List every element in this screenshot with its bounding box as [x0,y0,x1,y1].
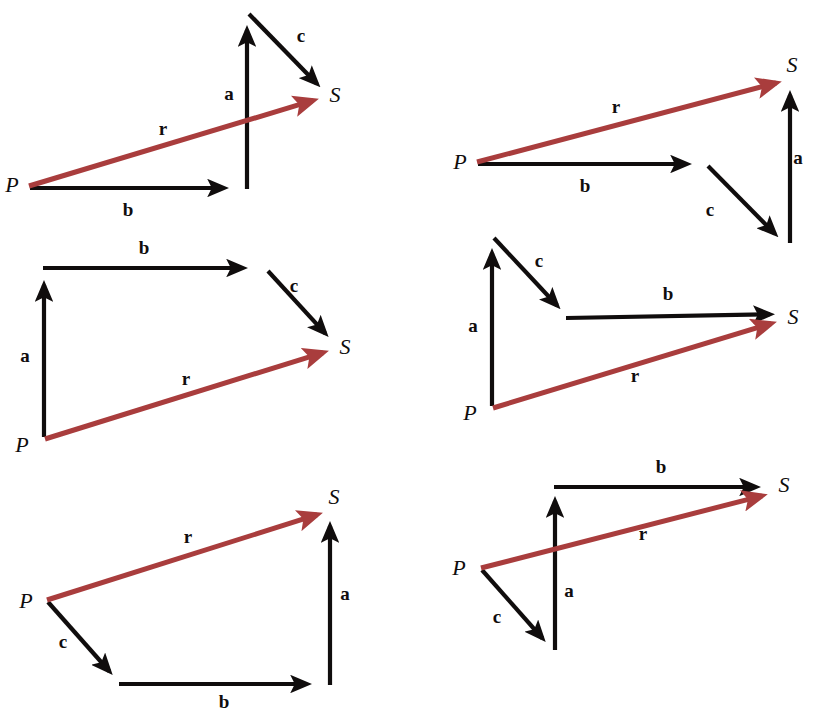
panel-1-vector-r-label: r [159,118,168,139]
panel-1-vector-r [29,100,313,186]
panel-1-point-s: S [330,82,341,107]
panel-6-point-p: P [451,555,465,580]
panel-3-vector-c-label: c [290,275,298,296]
panel-4: acbrPS [462,238,798,425]
figure-canvas: bacrPSbcarPSabcrPSacbrPScbarPScabrPS [0,0,814,713]
panel-4-vector-c [494,238,557,305]
panels-root: bacrPSbcarPSabcrPSacbrPScbarPScabrPS [4,14,803,712]
panel-5-vector-c-label: c [59,631,67,652]
panel-6-vector-b-label: b [656,456,667,477]
panel-5-vector-b-label: b [219,691,230,712]
panel-5-vector-c [48,602,109,671]
panel-5-point-s: S [329,484,340,509]
panel-4-point-p: P [462,400,476,425]
panel-2-point-s: S [787,52,798,77]
panel-1-vector-b-label: b [123,199,134,220]
panel-3-vector-r-label: r [182,368,191,389]
panel-4-vector-b-label: b [663,283,674,304]
panel-2-vector-r-label: r [612,96,621,117]
panel-5-vector-r [47,515,317,600]
panel-1-vector-c [249,14,317,84]
panel-2: bcarPS [452,52,803,243]
panel-5-vector-a-label: a [340,583,350,604]
vector-addition-figure: bacrPSbcarPSabcrPSacbrPScbarPScabrPS [0,0,814,713]
panel-6-vector-a-label: a [564,580,574,601]
panel-4-vector-r-label: r [631,365,640,386]
panel-4-vector-c-label: c [535,250,543,271]
panel-2-vector-r [477,83,776,162]
panel-2-vector-b-label: b [580,175,591,196]
panel-1-vector-c-label: c [297,25,305,46]
panel-1-point-p: P [4,172,18,197]
panel-6-vector-c-label: c [493,606,501,627]
panel-2-point-p: P [452,149,466,174]
panel-1: bacrPS [4,14,340,220]
panel-4-vector-a-label: a [468,315,478,336]
panel-6-point-s: S [779,472,790,497]
panel-5-point-p: P [18,588,32,613]
panel-1-vector-a-label: a [224,83,234,104]
panel-4-point-s: S [788,304,799,329]
panel-3: abcrPS [14,237,350,457]
panel-6-vector-c [482,570,542,638]
panel-3-point-s: S [340,334,351,359]
panel-3-vector-a-label: a [20,345,30,366]
panel-6-vector-r [481,496,762,568]
panel-2-vector-a-label: a [793,147,803,168]
panel-3-vector-r [45,353,323,439]
panel-5: cbarPS [18,484,350,712]
panel-3-vector-b-label: b [139,237,150,258]
panel-2-vector-c-label: c [706,199,714,220]
panel-3-point-p: P [14,432,28,457]
panel-5-vector-r-label: r [184,526,193,547]
panel-4-vector-b [566,314,770,318]
panel-6: cabrPS [451,456,789,650]
panel-6-vector-r-label: r [639,523,648,544]
panel-2-vector-c [708,166,775,234]
